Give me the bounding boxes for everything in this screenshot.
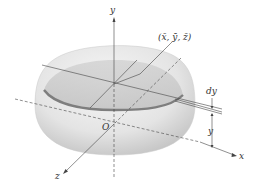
dy-label: dy (206, 86, 218, 96)
hemisphere (35, 46, 195, 155)
x-arrow-icon (232, 153, 238, 157)
y-height-label: y (207, 126, 214, 136)
hemisphere-diagram: y x z O (x̄, ȳ, z̄) dy y (0, 0, 259, 189)
y-axis-label: y (109, 5, 116, 15)
x-axis-label: x (239, 151, 244, 161)
centroid-label: (x̄, ȳ, z̄) (158, 32, 192, 42)
dimension-markers (211, 98, 214, 148)
origin-label: O (102, 122, 110, 132)
z-axis-label: z (54, 171, 60, 181)
y-arrow-icon (113, 17, 116, 22)
